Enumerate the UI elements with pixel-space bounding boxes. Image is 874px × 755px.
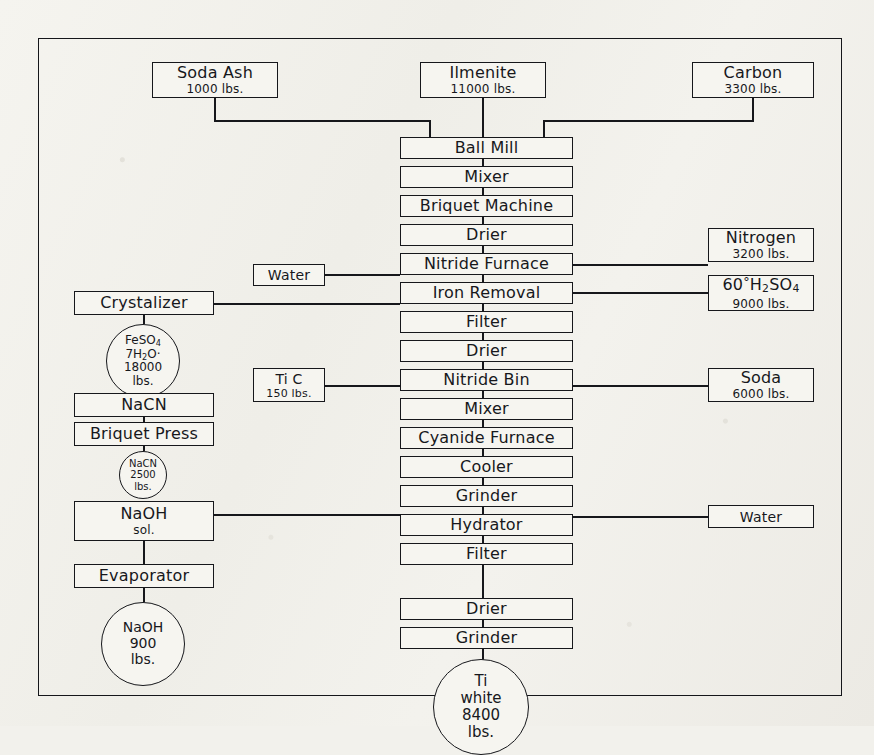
process-box-evaporator: Evaporator <box>74 564 214 588</box>
spine-5 <box>482 274 484 282</box>
sulfuric-acid-qty: 9000 lbs. <box>732 298 789 310</box>
feso4-line-1: FeSO4 <box>125 334 161 348</box>
process-label: Briquet Machine <box>420 198 553 214</box>
spine-3 <box>482 216 484 224</box>
naoh-circle-line-3: lbs. <box>131 652 156 668</box>
process-box-grinder-1: Grinder <box>400 485 573 507</box>
process-box-filter-2: Filter <box>400 543 573 565</box>
spine-10 <box>482 419 484 427</box>
process-box-filter-1: Filter <box>400 311 573 333</box>
spine-12 <box>482 477 484 485</box>
process-label: Drier <box>466 343 507 359</box>
water-left-label: Water <box>268 268 310 282</box>
process-label: Filter <box>466 546 507 562</box>
naoh-circle-line-1: NaOH <box>123 620 164 636</box>
process-box-briquet-machine: Briquet Machine <box>400 195 573 217</box>
nitrogen-qty: 3200 lbs. <box>732 248 789 260</box>
process-label: Filter <box>466 314 507 330</box>
byproduct-circle-naoh: NaOH 900 lbs. <box>101 602 185 686</box>
product-line-1: Ti <box>475 673 488 690</box>
process-label: Iron Removal <box>433 285 541 301</box>
process-box-cooler: Cooler <box>400 456 573 478</box>
connector-nitrogen-to-nitride-furnace <box>573 264 708 266</box>
product-circle-ti-white: Ti white 8400 lbs. <box>433 659 529 755</box>
nacn-circle-line-2: 2500 <box>130 469 155 480</box>
process-box-mixer-1: Mixer <box>400 166 573 188</box>
process-box-nitride-bin: Nitride Bin <box>400 369 573 391</box>
process-label: Grinder <box>456 488 518 504</box>
water-right-label: Water <box>740 510 782 524</box>
carbon-label: Carbon <box>724 65 783 81</box>
connector-soda-ash-down <box>214 98 216 120</box>
process-box-grinder-2: Grinder <box>400 627 573 649</box>
process-label: Cooler <box>460 459 513 475</box>
ti-c-qty: 150 lbs. <box>266 388 311 399</box>
process-label: Cyanide Furnace <box>418 430 554 446</box>
process-box-nacn: NaCN <box>74 393 214 417</box>
connector-sulfuric-to-iron-removal <box>573 292 708 294</box>
connector-evaporator-to-naoh-circle <box>143 588 145 602</box>
connector-soda-ash-into-ballmill <box>429 120 431 137</box>
ilmenite-label: Ilmenite <box>450 65 517 81</box>
input-box-water-left: Water <box>253 264 325 286</box>
input-box-sulfuric-acid: 60°H2SO4 9000 lbs. <box>708 275 814 311</box>
spine-4 <box>482 245 484 253</box>
connector-soda-ash-right <box>214 120 430 122</box>
soda-ash-label: Soda Ash <box>177 65 253 81</box>
connector-crystalizer-to-feso4 <box>143 315 145 324</box>
process-box-hydrator: Hydrator <box>400 514 573 536</box>
connector-ilmenite-down <box>482 98 484 137</box>
process-box-iron-removal: Iron Removal <box>400 282 573 304</box>
connector-naoh-sol-to-evaporator <box>143 541 145 564</box>
connector-carbon-into-ballmill <box>543 120 545 137</box>
naoh-circle-line-2: 900 <box>130 636 157 652</box>
process-box-cyanide-furnace: Cyanide Furnace <box>400 427 573 449</box>
process-box-drier-1: Drier <box>400 224 573 246</box>
ilmenite-qty: 11000 lbs. <box>450 83 515 95</box>
product-line-3: 8400 <box>462 707 500 724</box>
spine-8 <box>482 361 484 369</box>
process-box-ball-mill: Ball Mill <box>400 137 573 159</box>
process-label: Ball Mill <box>455 140 519 156</box>
feso4-line-2: 7H2O· <box>125 348 160 362</box>
spine-16 <box>482 619 484 627</box>
process-label: Nitride Bin <box>443 372 530 388</box>
evaporator-label: Evaporator <box>99 568 189 584</box>
connector-water-to-iron-removal <box>325 274 400 276</box>
connector-carbon-down <box>752 98 754 120</box>
process-label: Drier <box>466 601 507 617</box>
process-box-crystalizer: Crystalizer <box>74 291 214 315</box>
spine-6 <box>482 303 484 311</box>
product-line-2: white <box>460 690 501 707</box>
connector-soda-to-mixer-2 <box>573 385 708 387</box>
spine-9 <box>482 390 484 398</box>
soda-label: Soda <box>741 370 782 386</box>
product-line-4: lbs. <box>468 724 494 741</box>
connector-water-to-hydrator <box>573 516 708 518</box>
crystalizer-label: Crystalizer <box>100 295 188 311</box>
spine-1 <box>482 158 484 166</box>
carbon-qty: 3300 lbs. <box>724 83 781 95</box>
process-label: Drier <box>466 227 507 243</box>
feso4-line-3: 18000 <box>124 361 162 374</box>
process-box-drier-3: Drier <box>400 598 573 620</box>
input-box-soda-ash: Soda Ash 1000 lbs. <box>152 62 278 98</box>
process-label: Hydrator <box>450 517 522 533</box>
input-box-carbon: Carbon 3300 lbs. <box>692 62 814 98</box>
spine-11 <box>482 448 484 456</box>
connector-filter-1-to-crystalizer <box>214 303 400 305</box>
spine-13 <box>482 506 484 514</box>
spine-2 <box>482 187 484 195</box>
process-box-briquet-press: Briquet Press <box>74 422 214 446</box>
connector-carbon-left <box>543 120 754 122</box>
sulfuric-acid-label: 60°H2SO4 <box>722 276 799 295</box>
process-label: Mixer <box>464 169 509 185</box>
process-box-nitride-furnace: Nitride Furnace <box>400 253 573 275</box>
soda-qty: 6000 lbs. <box>732 388 789 400</box>
naoh-sol-label: NaOH <box>120 506 167 522</box>
input-box-ilmenite: Ilmenite 11000 lbs. <box>420 62 546 98</box>
naoh-sol-sublabel: sol. <box>133 524 155 536</box>
nitrogen-label: Nitrogen <box>726 230 796 246</box>
process-box-mixer-2: Mixer <box>400 398 573 420</box>
